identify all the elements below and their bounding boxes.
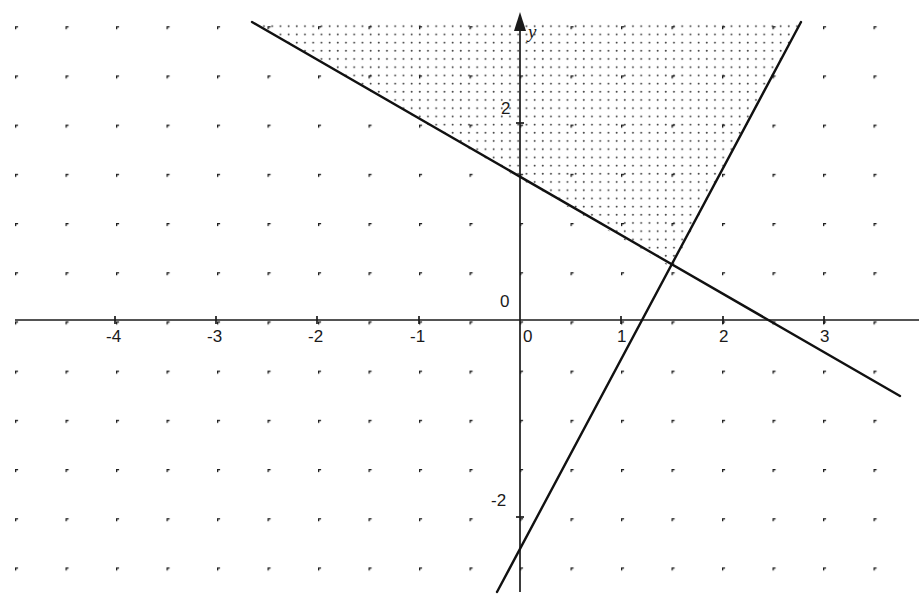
x-tick-label-minus-1: -1 bbox=[410, 328, 426, 345]
x-tick-label-minus-2: -2 bbox=[308, 328, 324, 345]
y-tick-label-minus-2: -2 bbox=[491, 492, 507, 509]
x-tick-label-minus-4: -4 bbox=[106, 328, 122, 345]
x-tick-label-2: 2 bbox=[719, 328, 729, 345]
y-axis-label: y bbox=[528, 22, 536, 41]
y-tick-label-2: 2 bbox=[501, 100, 511, 117]
graph-figure: y -4 -3 -2 -1 0 1 2 3 2 0 -2 bbox=[0, 0, 919, 612]
x-tick-label-3: 3 bbox=[820, 328, 830, 345]
y-tick-label-0: 0 bbox=[500, 293, 510, 310]
x-tick-label-0: 0 bbox=[523, 328, 533, 345]
x-tick-label-1: 1 bbox=[617, 328, 627, 345]
coordinate-plane bbox=[0, 0, 919, 612]
x-tick-label-minus-3: -3 bbox=[207, 328, 223, 345]
